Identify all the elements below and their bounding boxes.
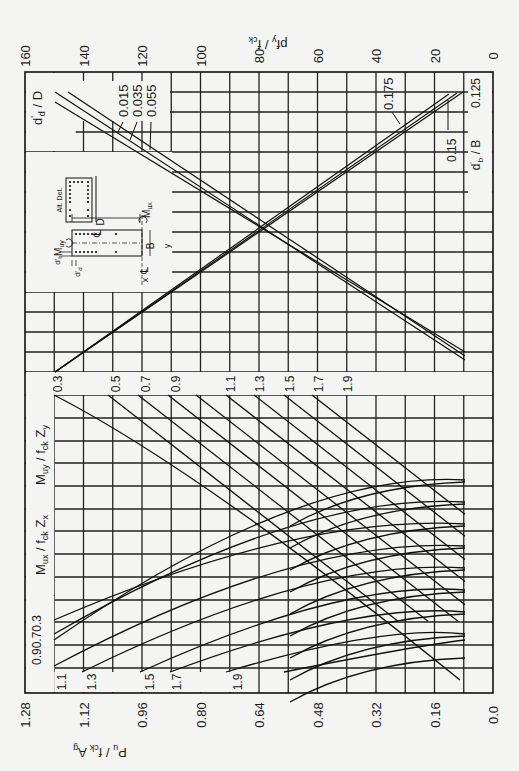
svg-text:B: B <box>145 242 156 249</box>
svg-text:Alt. Det.: Alt. Det. <box>56 188 63 213</box>
muy-value-label: 1.1 <box>224 375 238 392</box>
mux-value-label: 1.9 <box>231 673 245 690</box>
dd-series-labels: 0.015 0.035 0.055 <box>116 84 159 117</box>
muy-value-label: 0.5 <box>109 375 123 392</box>
bottom-axis-tick: 1.12 <box>77 702 92 727</box>
svg-text:Mux / fck Zx: Mux / fck Zx <box>33 515 50 575</box>
muy-value-label: 0.7 <box>139 375 153 392</box>
mux-value-label: 1.3 <box>85 673 99 690</box>
bottom-axis-tick: 0.80 <box>194 702 209 727</box>
interaction-curve <box>290 658 465 702</box>
bottom-axis-tick: 0.96 <box>135 702 150 727</box>
bottom-axis: 1.281.120.960.800.640.480.320.160.0 <box>18 702 501 727</box>
top-axis-tick: 60 <box>311 49 326 63</box>
top-axis-tick: 100 <box>194 45 209 67</box>
bottom-axis-title: Pu / fck Ag <box>73 743 127 760</box>
muy-panel-label: Muy / fck Zy <box>33 425 50 485</box>
bottom-axis-tick: 1.28 <box>18 702 33 727</box>
interaction-curve <box>290 526 465 570</box>
svg-text:℄: ℄ <box>138 267 150 275</box>
svg-text:d'b / B: d'b / B <box>468 140 485 171</box>
muy-value-label: 0.9 <box>169 375 183 392</box>
dd-label-0035: 0.035 <box>130 84 145 117</box>
db-over-B-label: d'b / B <box>468 140 485 171</box>
mux-panel-label: Mux / fck Zx <box>33 515 50 575</box>
db-series-labels: 0.175 0.15 0.125 <box>381 77 483 162</box>
svg-text:y: y <box>162 243 172 248</box>
biaxial-interaction-chart: 160140120100806040200 pfy / fck 1.281.12… <box>0 0 519 771</box>
muy-curve <box>138 395 428 621</box>
top-axis-tick: 160 <box>18 45 33 67</box>
bottom-axis-tick: 0.64 <box>252 702 267 727</box>
mux-value-label: 1.1 <box>55 673 69 690</box>
muy-value-label: 1.9 <box>341 375 355 392</box>
top-axis-tick: 40 <box>369 49 384 63</box>
svg-text:D: D <box>95 218 106 225</box>
muy-value-label: 1.7 <box>312 375 326 392</box>
label-leader <box>392 112 400 124</box>
interaction-curve <box>290 614 465 658</box>
muy-value-label: 1.5 <box>283 375 297 392</box>
muy-curve <box>254 395 465 560</box>
label-leader <box>150 122 151 150</box>
mux-stacked-label: 0.90.70.3 <box>30 615 44 665</box>
muy-value-label: 0.3 <box>51 375 65 392</box>
top-axis-tick: 140 <box>77 45 92 67</box>
top-axis-tick: 0 <box>486 52 501 59</box>
mux-value-label: 1.7 <box>170 673 184 690</box>
mux-value-label: 1.5 <box>143 673 157 690</box>
dd-label-0055: 0.055 <box>144 84 159 117</box>
svg-text:d'd / D: d'd / D <box>29 91 47 125</box>
db-label-015: 0.15 <box>445 138 459 162</box>
top-axis-tick: 20 <box>428 49 443 63</box>
bottom-axis-tick: 0.0 <box>486 706 501 724</box>
interaction-curve <box>290 636 465 680</box>
bottom-axis-tick: 0.32 <box>369 702 384 727</box>
svg-text:Pu / fck Ag: Pu / fck Ag <box>73 743 127 760</box>
bottom-axis-tick: 0.16 <box>428 702 443 727</box>
top-axis-title-main: pf <box>276 37 287 52</box>
svg-text:Muy / fck Zy: Muy / fck Zy <box>33 425 50 485</box>
muy-value-label: 1.3 <box>253 375 267 392</box>
dd-over-D-label: d'd / D <box>29 91 47 125</box>
db-label-0125: 0.125 <box>469 78 483 108</box>
svg-text:x: x <box>140 277 150 282</box>
dd-label-0015: 0.015 <box>116 84 131 117</box>
chart-canvas: 160140120100806040200 pfy / fck 1.281.12… <box>0 0 519 771</box>
label-leader <box>118 122 123 132</box>
db-label-0175: 0.175 <box>381 77 396 110</box>
top-axis-tick: 120 <box>135 45 150 67</box>
bottom-axis-tick: 0.48 <box>311 702 326 727</box>
